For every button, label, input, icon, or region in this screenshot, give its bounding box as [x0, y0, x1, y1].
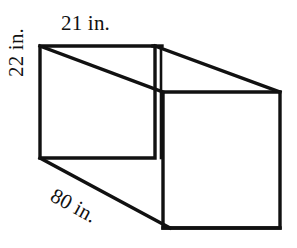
front-face [40, 46, 155, 158]
dimension-label-width: 21 in. [61, 13, 110, 34]
dimension-label-height: 22 in. [6, 28, 27, 77]
back-face [163, 92, 280, 228]
rectangular-prism-figure: 21 in. 22 in. 80 in. [0, 0, 297, 248]
top-right-connector-edge [155, 46, 280, 92]
prism-drawing [0, 0, 297, 248]
